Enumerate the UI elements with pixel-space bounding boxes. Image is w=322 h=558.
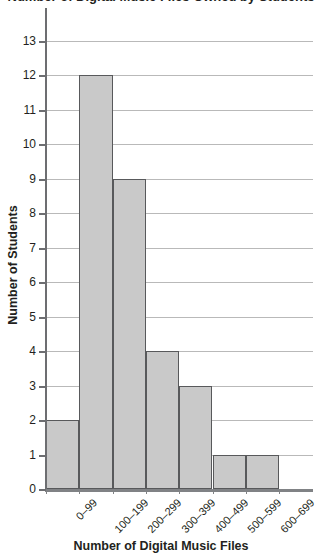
- y-axis-tick: [39, 455, 47, 457]
- plot-area: [46, 41, 313, 489]
- x-axis-tick: [279, 489, 280, 494]
- y-axis-tick-label: 13: [6, 35, 36, 47]
- y-axis-tick: [39, 213, 47, 215]
- bar: [46, 420, 79, 489]
- y-axis-tick: [39, 75, 47, 77]
- bar: [213, 455, 246, 489]
- bar: [113, 179, 146, 489]
- x-axis-category-label: 200–299: [146, 497, 184, 535]
- y-axis-tick-label: 11: [6, 104, 36, 116]
- y-axis-tick: [39, 386, 47, 388]
- y-axis-tick: [39, 41, 47, 43]
- y-axis-tick-label: 1: [6, 449, 36, 461]
- x-axis-category-label: 500–599: [246, 497, 284, 535]
- x-axis-tick: [79, 489, 80, 494]
- x-axis-title: Number of Digital Music Files: [0, 539, 322, 553]
- chart-title-clipped: Number of Digital Music Files Owned by S…: [0, 0, 322, 7]
- y-axis-tick: [39, 282, 47, 284]
- chart-title-text: Number of Digital Music Files Owned by S…: [8, 0, 315, 4]
- y-axis-tick-label: 10: [6, 138, 36, 150]
- y-axis-tick-label: 6: [6, 276, 36, 288]
- x-axis-tick: [146, 489, 147, 494]
- y-axis-tick-labels: 131211109876543210: [0, 0, 36, 558]
- y-axis-tick-label: 7: [6, 242, 36, 254]
- y-axis-tick-label: 9: [6, 173, 36, 185]
- y-axis-tick-label: 8: [6, 207, 36, 219]
- y-axis-tick: [39, 144, 47, 146]
- y-axis-tick: [39, 110, 47, 112]
- x-axis-category-label: 300–399: [179, 497, 217, 535]
- y-axis-tick-label: 4: [6, 345, 36, 357]
- x-axis-category-label: 400–499: [212, 497, 250, 535]
- y-axis-tick-label: 12: [6, 69, 36, 81]
- y-axis-tick-label: 3: [6, 380, 36, 392]
- y-axis-tick: [39, 420, 47, 422]
- y-axis-tick: [39, 317, 47, 319]
- x-axis-tick: [179, 489, 180, 494]
- bar: [246, 455, 279, 489]
- x-axis-category-label: 0–99: [74, 497, 99, 522]
- gridline: [46, 41, 313, 42]
- y-axis-tick: [39, 351, 47, 353]
- x-axis-category-label: 600–699: [279, 497, 317, 535]
- y-axis-tick-label: 5: [6, 311, 36, 323]
- bar: [179, 386, 212, 489]
- x-axis-category-label: 100–199: [112, 497, 150, 535]
- x-axis-tick: [46, 489, 47, 494]
- bar: [146, 351, 179, 489]
- y-axis-tick: [39, 248, 47, 250]
- histogram-chart: Number of Digital Music Files Owned by S…: [0, 0, 322, 558]
- x-axis-tick: [246, 489, 247, 494]
- y-axis-tick-label: 0: [6, 483, 36, 495]
- x-axis-tick: [113, 489, 114, 494]
- y-axis-tick: [39, 179, 47, 181]
- y-axis-tick-label: 2: [6, 414, 36, 426]
- x-axis-tick: [213, 489, 214, 494]
- bar: [79, 75, 112, 489]
